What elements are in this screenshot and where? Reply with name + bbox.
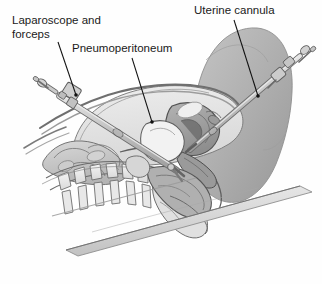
- leader-dot-laparoscope: [74, 93, 78, 97]
- leader-dot-pneumoperitoneum: [150, 120, 154, 124]
- leader-dot-uterine-cannula: [256, 94, 260, 98]
- label-laparoscope-line1: Laparoscope and: [12, 14, 101, 26]
- spinous-process: [126, 181, 136, 205]
- label-pneumoperitoneum: Pneumoperitoneum: [72, 42, 172, 54]
- illustration-canvas: Laparoscope and forceps Pneumoperitoneum…: [0, 0, 322, 284]
- vertebra: [90, 164, 102, 180]
- forceps-hinge: [168, 164, 175, 171]
- label-laparoscope-line2: forceps: [12, 28, 50, 40]
- laparoscopy-illustration: Laparoscope and forceps Pneumoperitoneum…: [0, 0, 322, 284]
- label-uterine-cannula: Uterine cannula: [194, 4, 275, 16]
- vertebra: [106, 163, 118, 178]
- spinous-process: [142, 184, 151, 208]
